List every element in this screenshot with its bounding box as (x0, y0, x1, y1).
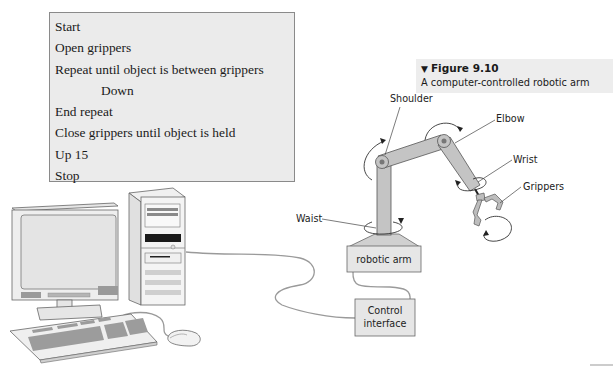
arm-cable (353, 272, 410, 300)
grippers-label: Grippers (523, 181, 564, 192)
diagram-drawing (0, 0, 613, 366)
robotic-arm-label: robotic arm (347, 253, 421, 266)
keyboard (10, 314, 157, 363)
arm-column (377, 162, 391, 235)
wrist-label: Wrist (513, 154, 537, 165)
elbow-label: Elbow (496, 113, 525, 124)
waist-label: Waist (296, 213, 322, 224)
computer-tower (129, 188, 185, 305)
control-interface-line2: interface (355, 317, 415, 330)
control-interface-line1: Control (355, 304, 415, 317)
control-interface-label: Control interface (355, 304, 415, 330)
leader-lines (322, 107, 521, 228)
grippers-arrow (484, 216, 511, 241)
mouse (168, 330, 200, 346)
screen (21, 215, 116, 289)
robotic-arm (376, 135, 504, 236)
computer-cable (186, 252, 355, 318)
shoulder-label: Shoulder (390, 93, 433, 104)
monitor (12, 203, 118, 320)
grippers (473, 193, 503, 226)
